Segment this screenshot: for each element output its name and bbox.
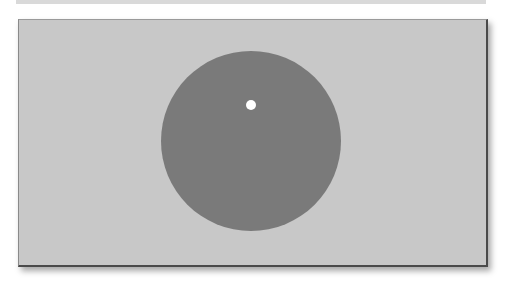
white-dot [246, 100, 256, 110]
gray-disc [161, 51, 341, 231]
top-strip [16, 0, 486, 4]
